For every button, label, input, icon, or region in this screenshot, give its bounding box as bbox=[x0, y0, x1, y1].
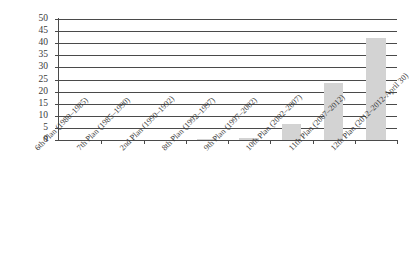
x-axis-category-label: 12th Plan (2012–2012-April 30) bbox=[329, 71, 410, 152]
